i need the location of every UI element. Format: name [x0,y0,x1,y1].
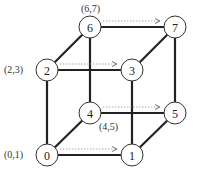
node-3: 3 [121,59,143,81]
node-label: 5 [172,107,178,121]
pair-label: (6,7) [81,3,100,14]
node-0: 0 [36,144,58,166]
node-label: 7 [172,21,178,35]
node-7: 7 [164,16,186,38]
node-5: 5 [164,102,186,124]
node-label: 6 [87,21,93,35]
node-label: 3 [129,64,135,78]
hypercube-diagram: 01234567 [0,0,197,178]
node-label: 0 [44,149,50,163]
edges [47,27,175,155]
node-2: 2 [36,59,58,81]
node-4: 4 [79,102,101,124]
node-1: 1 [121,144,143,166]
pair-label: (2,3) [4,64,23,75]
pair-label: (0,1) [4,149,23,160]
node-label: 4 [87,107,93,121]
node-label: 2 [44,64,50,78]
node-6: 6 [79,16,101,38]
pair-label: (4,5) [99,121,118,132]
node-label: 1 [129,149,135,163]
